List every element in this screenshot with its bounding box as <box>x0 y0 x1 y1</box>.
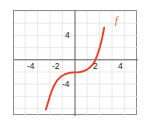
x-tick-label-neg4: -4 <box>27 62 35 71</box>
x-tick-label-neg2: -2 <box>52 62 60 71</box>
x-tick-label-2: 2 <box>93 62 98 71</box>
graph-figure: -4 -2 2 4 4 -4 f <box>0 0 150 125</box>
y-tick-label-neg4: -4 <box>62 80 70 89</box>
y-tick-label-4: 4 <box>65 31 70 40</box>
plot-frame: -4 -2 2 4 4 -4 f <box>13 10 137 115</box>
curve-name-label: f <box>115 17 118 27</box>
x-tick-label-4: 4 <box>118 62 123 71</box>
